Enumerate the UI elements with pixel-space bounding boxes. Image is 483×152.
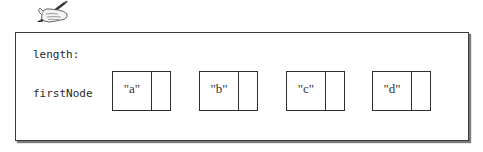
list-node-b: "b" bbox=[199, 71, 258, 111]
list-node-c: "c" bbox=[286, 71, 345, 111]
node-data-cell: "c" bbox=[287, 72, 326, 110]
node-next-cell bbox=[326, 72, 344, 110]
hand-writing-with-pen-icon bbox=[34, 0, 70, 24]
list-node-d: "d" bbox=[372, 71, 431, 111]
node-data-cell: "b" bbox=[200, 72, 239, 110]
node-next-cell bbox=[152, 72, 170, 110]
node-data-cell: "a" bbox=[113, 72, 152, 110]
node-next-cell bbox=[239, 72, 257, 110]
node-data-cell: "d" bbox=[373, 72, 412, 110]
node-next-cell bbox=[412, 72, 430, 110]
firstnode-field-label: firstNode bbox=[33, 87, 93, 100]
length-field-label: length: bbox=[33, 48, 79, 61]
list-node-a: "a" bbox=[112, 71, 171, 111]
